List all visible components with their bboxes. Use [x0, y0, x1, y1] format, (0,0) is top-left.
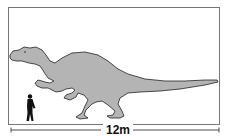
size-comparison-diagram — [0, 0, 228, 136]
scale-label: 12m — [103, 124, 133, 136]
dinosaur-eye — [24, 51, 26, 53]
